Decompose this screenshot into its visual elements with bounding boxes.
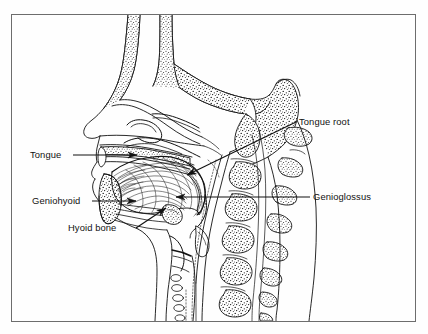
figure-page: TongueTongue rootGeniohyoidGenioglossusH… bbox=[0, 0, 428, 334]
label-text-geniohyoid: Geniohyoid bbox=[32, 195, 80, 206]
labels-layer: TongueTongue rootGeniohyoidGenioglossusH… bbox=[30, 116, 371, 233]
spinous-processes bbox=[259, 127, 312, 321]
cervical-vertebrae bbox=[219, 114, 261, 317]
hard-palate bbox=[100, 145, 192, 174]
anatomy-illustration: TongueTongue rootGeniohyoidGenioglossusH… bbox=[0, 0, 428, 334]
label-text-hyoid-bone: Hyoid bone bbox=[68, 222, 116, 233]
larynx-trachea bbox=[166, 230, 195, 321]
hyoid-bone bbox=[162, 205, 182, 225]
label-text-tongue-root: Tongue root bbox=[299, 116, 350, 127]
tongue-body bbox=[112, 156, 205, 215]
label-text-genioglossus: Genioglossus bbox=[313, 191, 371, 202]
label-text-tongue: Tongue bbox=[30, 149, 61, 160]
nasopharynx bbox=[202, 137, 221, 177]
cranium-outline bbox=[104, 15, 250, 114]
